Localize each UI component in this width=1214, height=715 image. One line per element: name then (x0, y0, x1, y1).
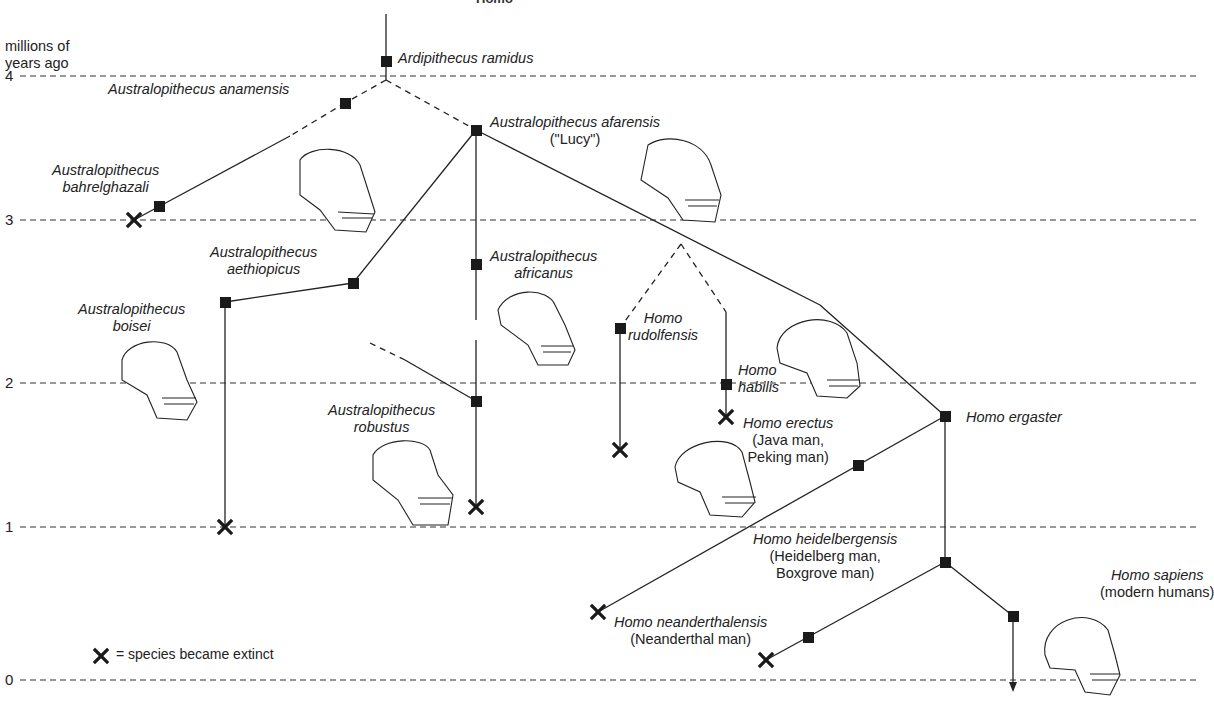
node-anamensis (340, 98, 351, 109)
node-sapiens (1008, 611, 1019, 622)
label-anamensis: Australopithecus anamensis (108, 81, 289, 98)
node-ergaster (940, 411, 951, 422)
label-bahrelghazali: Australopithecus bahrelghazali (52, 162, 159, 196)
label-sapiens: Homo sapiens (modern humans) (1100, 567, 1214, 601)
label-habilis: Homo habilis (738, 362, 779, 396)
skull-robustus-icon (373, 441, 453, 525)
label-rudolfensis: Homo rudolfensis (628, 310, 698, 344)
node-robustus (471, 396, 482, 407)
node-erectus (853, 460, 864, 471)
label-heidelbergensis: Homo heidelbergensis (Heidelberg man, Bo… (753, 531, 897, 582)
extinct-icon (592, 606, 604, 618)
tick-0: 0 (5, 671, 13, 688)
tick-3: 3 (5, 211, 13, 228)
tick-2: 2 (5, 374, 13, 391)
label-afarensis: Australopithecus afarensis ("Lucy") (490, 114, 660, 148)
legend: = species became extinct (92, 646, 274, 662)
extinct-icon (128, 214, 140, 226)
label-robustus: Australopithecus robustus (328, 402, 435, 436)
skull-boisei-icon (122, 342, 197, 420)
label-africanus: Australopithecus africanus (490, 248, 597, 282)
axis-title-line1: millions of (5, 38, 69, 55)
node-ramidus (381, 56, 392, 67)
node-habilis (721, 379, 732, 390)
label-ergaster: Homo ergaster (966, 409, 1062, 426)
node-afarensis (471, 125, 482, 136)
skull-habilis-icon (777, 320, 860, 398)
node-heidelbergensis (940, 557, 951, 568)
label-neanderthalensis: Homo neanderthalensis (Neanderthal man) (614, 614, 767, 648)
tick-4: 4 (5, 67, 13, 84)
skull-sapiens-icon (1045, 618, 1120, 695)
time-gridlines (20, 76, 1200, 680)
label-erectus: Homo erectus (Java man, Peking man) (743, 415, 833, 466)
extinct-icon (760, 654, 772, 666)
node-aethiopicus (348, 278, 359, 289)
axis-title: millions of years ago (5, 38, 69, 72)
extinction-marks (95, 214, 772, 666)
node-neanderthalensis (803, 632, 814, 643)
label-aethiopicus: Australopithecus aethiopicus (210, 244, 317, 278)
node-africanus (471, 259, 482, 270)
node-bahrelghazali (154, 201, 165, 212)
label-boisei: Australopithecus boisei (78, 301, 185, 335)
skull-africanus-icon (498, 292, 575, 365)
tick-1: 1 (5, 518, 13, 535)
node-boisei (220, 297, 231, 308)
skull-afarensis-icon (641, 139, 721, 222)
node-rudolfensis (615, 323, 626, 334)
label-ardipithecus-ramidus: Ardipithecus ramidus (398, 50, 533, 67)
legend-text: = species became extinct (116, 646, 274, 662)
axis-title-line2: years ago (5, 55, 69, 72)
